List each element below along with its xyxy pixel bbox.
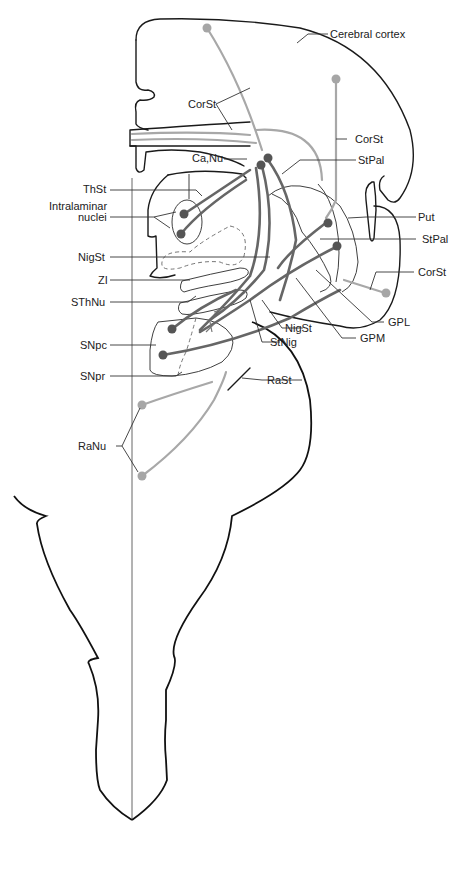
- label-ranu: RaNu: [78, 440, 106, 452]
- label-stnig: StNig: [270, 336, 297, 348]
- nigst-dashed-region: [162, 226, 246, 269]
- label-intralaminar-line2: nuclei: [78, 211, 107, 223]
- raphe-neuron-2: [138, 472, 147, 481]
- snpc-neuron-1: [168, 325, 177, 334]
- label-gpm: GPM: [360, 332, 385, 344]
- substantia-nigra-outline: [150, 318, 233, 376]
- label-stpal-upper: StPal: [358, 154, 384, 166]
- label-corst-upper-right: CorSt: [355, 133, 383, 145]
- putamen-neuron: [324, 219, 333, 228]
- label-nigst-left: NigSt: [78, 251, 105, 263]
- brainstem-right-outline: [132, 322, 311, 820]
- intralaminar-neuron-1: [180, 210, 189, 219]
- stpal-neuron: [333, 242, 342, 251]
- corst-lateral-neuron: [382, 289, 391, 298]
- label-cerebral-cortex: Cerebral cortex: [330, 28, 406, 40]
- labels: Cerebral cortex CorSt CorSt Ca,Nu StPal …: [49, 28, 448, 452]
- label-corst-lower: CorSt: [418, 266, 446, 278]
- label-ca-nu: Ca,Nu: [192, 152, 223, 164]
- label-thst: ThSt: [83, 183, 106, 195]
- label-rast: RaSt: [267, 374, 291, 386]
- label-corst-upper-left: CorSt: [188, 98, 216, 110]
- label-stpal-lower: StPal: [422, 233, 448, 245]
- label-gpl: GPL: [388, 316, 410, 328]
- snpc-neuron-2: [159, 351, 168, 360]
- label-snpr: SNpr: [80, 370, 105, 382]
- cerebral-cortex-outline: [136, 19, 413, 202]
- label-snpc: SNpc: [80, 339, 107, 351]
- cortex-neuron-2: [332, 75, 341, 84]
- lateral-ventricle-outline: [366, 182, 376, 241]
- brainstem-left-outline: [14, 496, 132, 820]
- basal-ganglia-diagram: Cerebral cortex CorSt CorSt Ca,Nu StPal …: [0, 0, 459, 871]
- intralaminar-neuron-2: [177, 230, 186, 239]
- label-nigst-lower: NigSt: [285, 322, 312, 334]
- intralaminar-nuclei-outline: [172, 200, 202, 244]
- cortex-neuron-1: [203, 24, 212, 33]
- raphe-neuron-1: [138, 401, 147, 410]
- brain-outline: [14, 19, 413, 820]
- label-zi: ZI: [98, 274, 108, 286]
- label-put: Put: [418, 211, 435, 223]
- caudate-neuron-1: [264, 154, 273, 163]
- cortex-left-border: [136, 40, 155, 130]
- caudate-neuron-2: [257, 161, 266, 170]
- label-sthnu: SThNu: [71, 296, 105, 308]
